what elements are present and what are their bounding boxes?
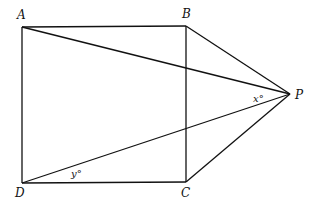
geometry-diagram: A B C D P x° y°	[0, 0, 319, 205]
point-label-c: C	[181, 186, 190, 200]
segment-ap	[22, 27, 290, 94]
angle-label-y: y°	[70, 168, 82, 179]
segment-dp	[22, 94, 290, 183]
point-label-p: P	[294, 88, 304, 102]
segment-cd	[22, 182, 186, 183]
angle-label-x: x°	[253, 93, 264, 104]
segment-bp	[186, 26, 290, 94]
segment-cp	[186, 94, 290, 182]
point-label-b: B	[181, 7, 191, 21]
diagram-svg: A B C D P x° y°	[0, 0, 319, 205]
point-label-a: A	[16, 8, 26, 22]
point-label-d: D	[14, 186, 25, 200]
segment-ab	[22, 26, 186, 27]
